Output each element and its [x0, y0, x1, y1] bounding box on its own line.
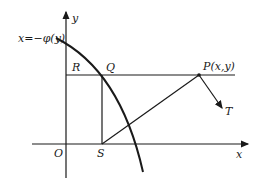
y-axis-label: y [71, 12, 79, 25]
label-T: T [225, 105, 234, 118]
curve-label: x=−φ(y) [18, 32, 65, 45]
label-R: R [71, 61, 80, 74]
diagram-svg: x=−φ(y) y x O R Q P(x,y) T S [0, 0, 259, 185]
diagram-canvas: x=−φ(y) y x O R Q P(x,y) T S [0, 0, 259, 185]
label-S: S [97, 147, 105, 160]
label-Q: Q [106, 61, 115, 74]
origin-label: O [54, 147, 63, 160]
x-axis-label: x [236, 148, 243, 161]
line-SP [102, 75, 199, 144]
point-P [197, 73, 201, 77]
label-P: P(x,y) [202, 60, 235, 73]
tangent-PT [199, 75, 222, 108]
